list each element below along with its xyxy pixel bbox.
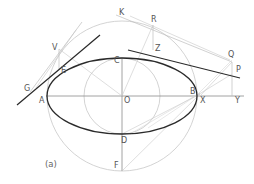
label-C: C [114, 57, 120, 65]
label-O: O [124, 97, 130, 105]
label-G: G [24, 85, 30, 93]
label-F: F [114, 162, 119, 170]
label-Y: Y [235, 97, 240, 105]
label-D: D [121, 137, 127, 145]
label-V: V [52, 44, 57, 52]
label-A: A [39, 97, 44, 105]
label-K: K [119, 9, 124, 17]
label-P: P [236, 66, 241, 74]
label-X: X [200, 97, 205, 105]
line-P-X [196, 74, 232, 96]
ellipse-construction-diagram [0, 0, 254, 184]
label-Q: Q [228, 51, 234, 59]
line-R-tangent-circle [130, 16, 230, 60]
line-E-circle [36, 30, 76, 88]
figure-caption: (a) [45, 160, 57, 169]
line-V-O [59, 49, 122, 96]
label-E: E [61, 67, 66, 75]
label-B: B [190, 88, 196, 96]
label-R: R [151, 16, 157, 24]
line-K-Q [116, 15, 232, 62]
line-B-Q [196, 60, 232, 96]
label-Z: Z [155, 45, 160, 53]
